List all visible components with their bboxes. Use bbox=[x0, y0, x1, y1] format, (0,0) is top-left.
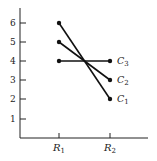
y-tick-label: 5 bbox=[10, 37, 16, 47]
chart: 1 2 3 4 5 6 R1 R2 C3 C2 C1 bbox=[0, 0, 157, 161]
y-ticks: 1 2 3 4 5 6 bbox=[10, 18, 26, 124]
y-tick-label: 3 bbox=[10, 75, 16, 85]
y-tick-label: 1 bbox=[10, 114, 16, 124]
series-label-c1: C1 bbox=[117, 93, 129, 106]
series-label-c2: C2 bbox=[117, 74, 129, 87]
x-ticks: R1 R2 bbox=[52, 133, 116, 155]
series-label-c3: C3 bbox=[117, 55, 129, 68]
y-tick-label: 4 bbox=[10, 56, 16, 66]
x-tick-label-r2: R2 bbox=[103, 142, 116, 155]
series-c3 bbox=[57, 59, 112, 63]
x-tick-label-r1: R1 bbox=[52, 142, 65, 155]
y-tick-label: 2 bbox=[10, 94, 16, 104]
y-tick-label: 6 bbox=[10, 18, 16, 28]
